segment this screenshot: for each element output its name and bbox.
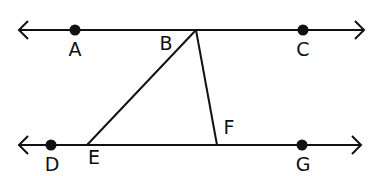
point-C: C — [296, 25, 309, 61]
point-label: E — [88, 146, 100, 168]
point-label: G — [296, 153, 311, 175]
point-dot-icon — [70, 25, 81, 36]
segment-BE — [87, 30, 196, 145]
point-label: A — [69, 38, 82, 60]
point-label: F — [224, 116, 235, 138]
point-B: B — [159, 32, 172, 54]
point-E: E — [88, 146, 100, 168]
segment-BF — [196, 30, 217, 145]
point-dot-icon — [46, 140, 57, 151]
geometry-diagram: ABCDEFG — [0, 0, 375, 176]
point-A: A — [69, 25, 82, 61]
points-group: ABCDEFG — [45, 25, 311, 176]
point-dot-icon — [297, 140, 308, 151]
point-label: D — [45, 153, 60, 175]
line-DG — [19, 136, 361, 154]
segments-group — [87, 30, 217, 145]
point-label: B — [159, 32, 172, 54]
point-dot-icon — [298, 25, 309, 36]
point-label: C — [296, 38, 309, 60]
point-F: F — [224, 116, 235, 138]
